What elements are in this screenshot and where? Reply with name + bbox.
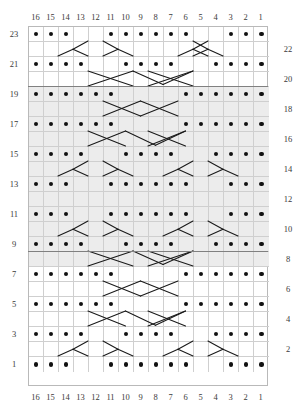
cell-r21-c16 — [29, 57, 44, 72]
chart-row-7 — [29, 267, 269, 282]
cell-r22-c8 — [149, 42, 164, 57]
purl-dot — [139, 212, 143, 216]
cell-r8-c10 — [119, 252, 134, 267]
purl-dot — [79, 92, 83, 96]
cell-r16-c5 — [194, 132, 209, 147]
cell-r18-c10 — [119, 102, 134, 117]
chart-row-18 — [29, 102, 269, 117]
cell-r9-c8 — [149, 237, 164, 252]
cell-r11-c2 — [239, 207, 254, 222]
column-label-13: 13 — [73, 12, 88, 22]
purl-dot — [259, 242, 263, 246]
cell-r4-c10 — [119, 312, 134, 327]
cell-r8-c3 — [224, 252, 239, 267]
cell-r12-c11 — [104, 192, 119, 207]
cell-r5-c3 — [224, 297, 239, 312]
cell-r4-c12 — [89, 312, 104, 327]
purl-dot — [199, 302, 203, 306]
cell-r20-c5 — [194, 72, 209, 87]
cell-r13-c6 — [179, 177, 194, 192]
cell-r8-c4 — [209, 252, 224, 267]
purl-dot — [124, 32, 128, 36]
cell-r7-c15 — [44, 267, 59, 282]
cell-r10-c1 — [254, 222, 269, 237]
cell-r16-c12 — [89, 132, 104, 147]
column-label-5: 5 — [193, 392, 208, 402]
cell-r19-c9 — [134, 87, 149, 102]
cell-r7-c16 — [29, 267, 44, 282]
cell-r7-c10 — [119, 267, 134, 282]
purl-dot — [79, 302, 83, 306]
cell-r22-c1 — [254, 42, 269, 57]
chart-row-17 — [29, 117, 269, 132]
cell-r8-c12 — [89, 252, 104, 267]
cell-r7-c7 — [164, 267, 179, 282]
cell-r19-c5 — [194, 87, 209, 102]
column-label-12: 12 — [88, 392, 103, 402]
cell-r14-c9 — [134, 162, 149, 177]
cell-r1-c11 — [104, 357, 119, 372]
cell-r16-c16 — [29, 132, 44, 147]
cell-r17-c8 — [149, 117, 164, 132]
purl-dot — [169, 332, 173, 336]
purl-dot — [139, 62, 143, 66]
cell-r1-c5 — [194, 357, 209, 372]
purl-dot — [214, 302, 218, 306]
column-label-14: 14 — [58, 392, 73, 402]
cell-r23-c8 — [149, 27, 164, 42]
cell-r3-c9 — [134, 327, 149, 342]
cell-r9-c10 — [119, 237, 134, 252]
cell-r23-c11 — [104, 27, 119, 42]
purl-dot — [139, 242, 143, 246]
purl-dot — [259, 212, 263, 216]
purl-dot — [244, 32, 248, 36]
cell-r21-c2 — [239, 57, 254, 72]
purl-dot — [139, 362, 143, 366]
purl-dot — [244, 212, 248, 216]
cell-r13-c5 — [194, 177, 209, 192]
row-label-left-23: 23 — [6, 29, 22, 39]
cell-r10-c6 — [179, 222, 194, 237]
purl-dot — [229, 302, 233, 306]
purl-dot — [64, 152, 68, 156]
purl-dot — [244, 362, 248, 366]
purl-dot — [64, 32, 68, 36]
cell-r19-c7 — [164, 87, 179, 102]
cell-r15-c6 — [179, 147, 194, 162]
chart-row-16 — [29, 132, 269, 147]
cell-r17-c3 — [224, 117, 239, 132]
cell-r3-c3 — [224, 327, 239, 342]
purl-dot — [244, 332, 248, 336]
cell-r5-c15 — [44, 297, 59, 312]
cell-r17-c15 — [44, 117, 59, 132]
cell-r2-c7 — [164, 342, 179, 357]
cell-r17-c2 — [239, 117, 254, 132]
cell-r7-c1 — [254, 267, 269, 282]
cell-r19-c16 — [29, 87, 44, 102]
row-label-right-20: 20 — [280, 74, 296, 84]
cell-r22-c2 — [239, 42, 254, 57]
cell-r13-c15 — [44, 177, 59, 192]
chart-grid — [28, 26, 268, 386]
cell-r9-c13 — [74, 237, 89, 252]
cell-r18-c11 — [104, 102, 119, 117]
cell-r23-c9 — [134, 27, 149, 42]
cell-r14-c13 — [74, 162, 89, 177]
cell-r3-c10 — [119, 327, 134, 342]
cell-r21-c3 — [224, 57, 239, 72]
cell-r2-c12 — [89, 342, 104, 357]
cell-r21-c11 — [104, 57, 119, 72]
purl-dot — [184, 272, 188, 276]
purl-dot — [124, 62, 128, 66]
cell-r15-c4 — [209, 147, 224, 162]
cell-r3-c2 — [239, 327, 254, 342]
purl-dot — [169, 62, 173, 66]
purl-dot — [229, 212, 233, 216]
purl-dot — [94, 122, 98, 126]
purl-dot — [154, 332, 158, 336]
purl-dot — [64, 302, 68, 306]
cell-r14-c16 — [29, 162, 44, 177]
cell-r10-c12 — [89, 222, 104, 237]
cell-r21-c6 — [179, 57, 194, 72]
purl-dot — [34, 122, 38, 126]
